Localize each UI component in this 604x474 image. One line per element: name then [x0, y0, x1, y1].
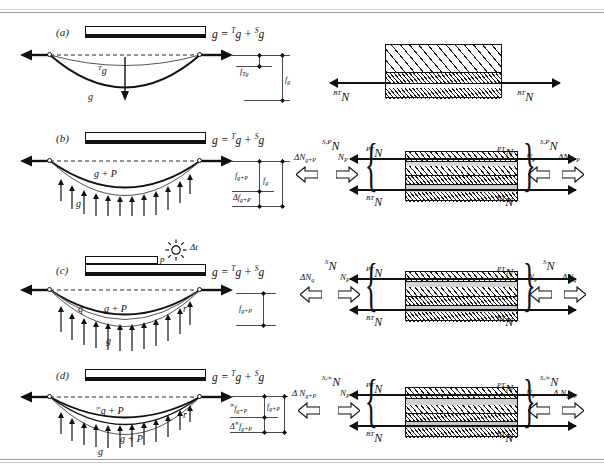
- girder-bottom-flange-c: [86, 272, 205, 275]
- panel-d-label: (d): [56, 369, 69, 381]
- xsec-c-3: [406, 287, 517, 296]
- xsec-b-4: [406, 176, 517, 184]
- pt-pre-right-d: PT: [497, 381, 505, 389]
- girder-bottom-flange-a: [86, 34, 205, 37]
- pt-pre-left-b: PT: [366, 145, 374, 153]
- scale-line-mid-b: [232, 191, 274, 192]
- force-delta-label-right-c: ΔNq: [562, 272, 576, 282]
- scan-edge-bottom-faint: [0, 462, 604, 463]
- block-arrow-left-right-d: [528, 402, 550, 419]
- scale-tick-b3: [257, 204, 262, 209]
- force-np-sub-right-d: P: [532, 393, 536, 399]
- dim-fgp-sub-b: g+P: [237, 175, 248, 181]
- pt-pre-left-d: PT: [366, 381, 374, 389]
- bt-pre-right-d: BT: [497, 430, 505, 438]
- bt-base-left-b: N: [374, 195, 382, 209]
- section-pt-left-b: PTN: [366, 143, 382, 161]
- force-delta-base-left-d: Δ N: [292, 388, 305, 398]
- section-bt-left-c: BTN: [366, 312, 382, 330]
- eq-lhs-d: g: [212, 371, 218, 383]
- curve-label-lower-d: g: [98, 446, 103, 457]
- section-bt-right-c: BTN: [497, 312, 513, 330]
- force-top-base-right-c: N: [547, 259, 555, 273]
- force-label-right-a: BTN: [517, 87, 533, 105]
- curve-label-top-base-d: g + P: [101, 405, 124, 416]
- brace-right-d: }: [523, 371, 536, 431]
- cable-elevation-c: q g + P r g: [20, 283, 235, 351]
- dim-dfgp-base-b: Δf: [233, 193, 240, 202]
- panel-c-label: (c): [56, 264, 68, 276]
- eq-plus-c: +: [241, 266, 255, 278]
- cross-section-a: [385, 44, 502, 98]
- force-np-label-right-d: NP: [526, 388, 536, 398]
- block-arrow-right-b: [336, 166, 358, 183]
- eq-lhs-a: g: [212, 28, 218, 40]
- dim-delta-sub-d: g+P: [241, 426, 252, 432]
- deflection-scale-c: fg+P: [236, 288, 294, 338]
- scale-vert-big-a: [282, 53, 283, 102]
- eq-lhs-c: g: [212, 266, 218, 278]
- force-np-label-right-c: NP: [528, 272, 538, 282]
- bt-pre-left-c: BT: [366, 314, 374, 322]
- force-delta-sub-left-c: q: [311, 277, 314, 283]
- curve-label-upper-c: g + P: [104, 303, 127, 314]
- force-delta-label-left-d: Δ Ng+P: [292, 388, 316, 398]
- dim-inf-sub-d: g+P: [237, 408, 248, 414]
- slab-load-bar-c: [85, 256, 158, 264]
- pt-base-left-c: N: [374, 266, 382, 280]
- bt-pre-left-b: BT: [366, 194, 374, 202]
- cable-curves-a: [20, 48, 235, 110]
- force-np-label-left-b: NP: [338, 152, 348, 162]
- dim-label-ftg-a: fTg: [240, 67, 249, 76]
- pt-pre-right-b: PT: [497, 145, 505, 153]
- dim-label-fg-a: fg: [285, 75, 290, 84]
- panel-b-label: (b): [56, 132, 69, 144]
- panel-b: (b) g = Tg + Sg: [0, 118, 604, 236]
- force-top-pre-left-b: S,P: [322, 138, 332, 146]
- dim-label-delta-inf-fgp-d: Δ∞fg+P: [230, 420, 252, 431]
- dim-label-fgp-d: fg+P: [267, 402, 280, 411]
- panel-d: (d) g = Tg + Sg: [0, 356, 604, 459]
- force-top-base-left-d: N: [332, 375, 340, 389]
- figure-page: (a) g = Tg + Sg Tg g: [0, 0, 604, 474]
- bt-pre-right-c: BT: [497, 314, 505, 322]
- scan-edge-bottom: [0, 459, 604, 460]
- cable-elevation-b: g + P g: [20, 154, 235, 216]
- force-top-base-left-b: N: [332, 139, 340, 153]
- pt-base-right-c: N: [505, 266, 513, 280]
- force-delta-label-left-b: ΔNg+P: [294, 152, 316, 162]
- pt-base-left-b: N: [374, 146, 382, 160]
- scale-line-mid-d: [230, 417, 278, 418]
- girder-equation-d: g = Tg + Sg: [212, 369, 264, 383]
- xsec-web-a: [386, 73, 501, 83]
- girder-equation-a: g = Tg + Sg: [212, 26, 264, 40]
- eq-lhs-b: g: [212, 134, 218, 146]
- eq-term2-b: g: [258, 134, 264, 146]
- support-node-left-c: [47, 287, 52, 292]
- force-top-label-left-c: SN: [325, 256, 337, 274]
- support-node-left-b: [47, 158, 52, 163]
- scale-vert-c: [263, 292, 264, 327]
- force-top-base-right-d: N: [550, 375, 558, 389]
- cable-curves-b: [20, 154, 235, 216]
- scale-line-top-d: [230, 396, 288, 397]
- force-delta-base-right-d: Δ N: [553, 388, 566, 398]
- bt-base-right-d: N: [505, 431, 513, 445]
- block-arrow-left-c: [300, 286, 322, 303]
- force-top-pre-right-d: S,∞: [540, 374, 550, 382]
- section-pt-left-d: PTN: [366, 379, 382, 397]
- scale-vert-2-d: [284, 394, 285, 434]
- force-label-left-a: BTN: [333, 87, 349, 105]
- block-arrow-left-right-b: [528, 166, 550, 183]
- dim-dfgp-sub-b: g+P: [240, 197, 251, 203]
- xsec-flange-a: [386, 88, 501, 99]
- dim-ftg-sub-a: Tg: [242, 71, 248, 77]
- curve-label-r-c: r: [183, 303, 187, 314]
- girder-bottom-flange-d: [86, 377, 205, 380]
- bt-base-right-c: N: [505, 315, 513, 329]
- slab-load-label-c: p: [160, 254, 165, 264]
- curve-label-lower-a: g: [88, 91, 93, 102]
- dim-fg-sub-a: g: [287, 79, 290, 85]
- scale-tick-a3: [280, 53, 285, 58]
- panel-a: (a) g = Tg + Sg Tg g: [0, 0, 604, 118]
